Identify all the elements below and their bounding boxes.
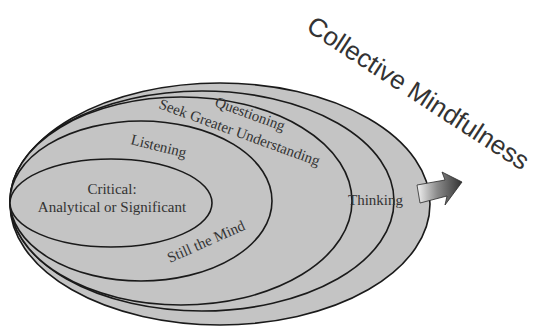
diagram-svg: Critical: Analytical or Significant List…: [0, 0, 542, 331]
label-thinking: Thinking: [348, 192, 403, 208]
mindfulness-diagram: Critical: Analytical or Significant List…: [0, 0, 542, 331]
label-critical-line2: Analytical or Significant: [38, 199, 187, 215]
label-critical-line1: Critical:: [87, 181, 136, 197]
